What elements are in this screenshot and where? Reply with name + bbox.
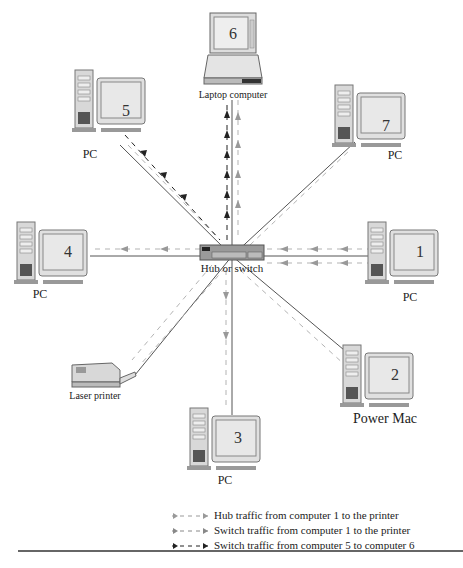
power-mac-2 [340,345,413,407]
legend-label: Hub traffic from computer 1 to the print… [214,508,399,523]
legend-item: Hub traffic from computer 1 to the print… [170,508,415,523]
node-number: 2 [391,366,399,384]
node-label: Laser printer [69,390,120,401]
pc-5 [72,70,145,132]
node-label: PC [388,148,403,163]
node-label: Power Mac [353,411,417,427]
pc-1 [365,222,438,284]
legend-label: Switch traffic from computer 1 to the pr… [214,523,410,538]
hub-label: Hub or switch [201,262,263,274]
pc-3 [187,408,260,470]
node-label: PC [218,473,233,488]
node-number: 1 [416,243,424,261]
divider [18,550,463,552]
node-label: PC [33,287,48,302]
legend: Hub traffic from computer 1 to the print… [170,508,415,553]
laser-printer [72,363,136,387]
laptop-computer-6 [204,13,262,84]
hub-device [200,245,264,260]
node-number: 3 [234,429,242,447]
dashed-arrow-icon [170,526,210,536]
node-number: 5 [122,102,130,120]
pc-7 [332,85,405,147]
node-label: PC [83,147,98,162]
legend-item: Switch traffic from computer 1 to the pr… [170,523,415,538]
node-number: 4 [64,243,72,261]
node-label: PC [403,290,418,305]
dashed-arrow-icon [170,541,210,551]
node-number: 7 [382,117,390,135]
dashed-arrow-icon [170,511,210,521]
node-label: Laptop computer [199,89,268,100]
node-number: 6 [229,25,237,43]
pc-4 [14,222,87,284]
